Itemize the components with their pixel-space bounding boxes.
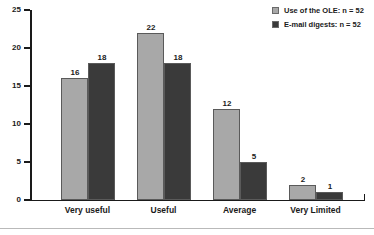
legend-item-series-a: Use of the OLE: n = 52 <box>272 4 372 17</box>
legend-label-series-b: E-mail digests: n = 52 <box>284 21 361 29</box>
x-axis-category-label: Very Limited <box>271 206 361 215</box>
plot-area: 1618221812521 <box>32 10 365 200</box>
y-axis-tick-label: 20 <box>0 44 21 52</box>
y-axis-tick <box>24 123 30 125</box>
bar-chart: 0510152025 1618221812521 Very usefulUsef… <box>0 0 374 235</box>
bar-series-a: 2 <box>289 185 316 200</box>
page-divider <box>0 228 374 229</box>
bar-value-label: 12 <box>214 100 241 108</box>
y-axis-tick-label: 15 <box>0 82 21 90</box>
bar-group: 2218 <box>137 10 191 200</box>
bar-series-b: 5 <box>240 162 267 200</box>
bar-value-label: 1 <box>317 183 344 191</box>
bar-group: 21 <box>289 10 343 200</box>
bar-value-label: 22 <box>138 24 165 32</box>
legend-swatch-icon-series-b <box>272 21 279 28</box>
bar-value-label: 18 <box>89 54 116 62</box>
bar-value-label: 5 <box>241 153 268 161</box>
bar-group: 1618 <box>61 10 115 200</box>
bar-series-a: 22 <box>137 33 164 200</box>
bar-series-b: 18 <box>88 63 115 200</box>
y-axis-tick <box>24 199 30 201</box>
legend-item-series-b: E-mail digests: n = 52 <box>272 18 372 31</box>
y-axis-tick-label: 25 <box>0 6 21 14</box>
chart-legend: Use of the OLE: n = 52 E-mail digests: n… <box>272 4 372 32</box>
bar-value-label: 16 <box>62 69 89 77</box>
legend-swatch-icon-series-a <box>272 7 279 14</box>
y-axis-tick-label: 5 <box>0 158 21 166</box>
y-axis-tick <box>24 9 30 11</box>
bar-series-a: 12 <box>213 109 240 200</box>
bar-series-a: 16 <box>61 78 88 200</box>
bar-series-b: 1 <box>316 192 343 200</box>
bar-value-label: 2 <box>290 176 317 184</box>
y-axis-tick-label: 0 <box>0 196 21 204</box>
bar-group: 125 <box>213 10 267 200</box>
bar-value-label: 18 <box>165 54 192 62</box>
y-axis-tick <box>24 161 30 163</box>
y-axis-tick-label: 10 <box>0 120 21 128</box>
bar-series-b: 18 <box>164 63 191 200</box>
y-axis-tick <box>24 85 30 87</box>
y-axis-tick <box>24 47 30 49</box>
legend-label-series-a: Use of the OLE: n = 52 <box>284 7 364 15</box>
